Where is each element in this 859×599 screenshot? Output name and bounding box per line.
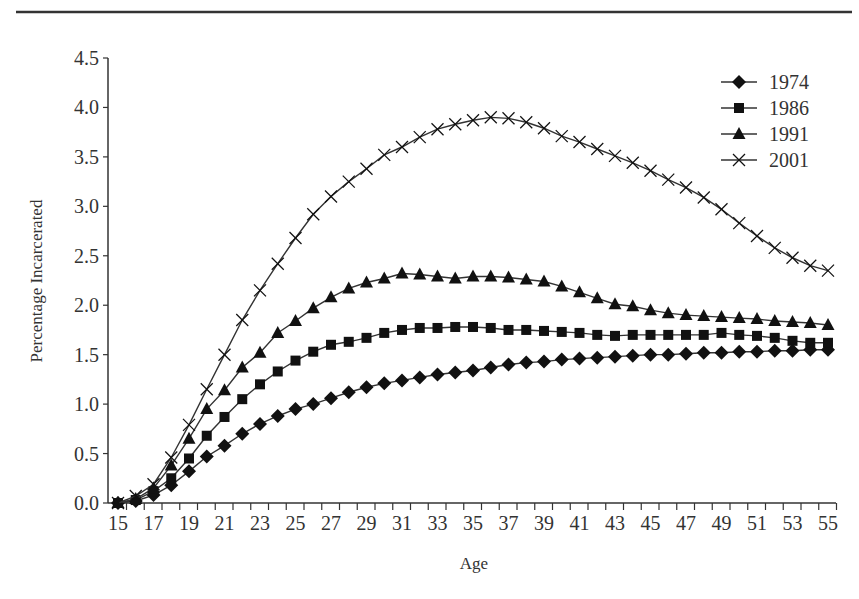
diamond-marker-icon <box>235 427 249 441</box>
x-marker-icon <box>414 131 426 143</box>
square-marker-icon <box>326 340 336 350</box>
x-marker-icon <box>645 165 657 177</box>
x-tick-label: 25 <box>286 512 306 534</box>
x-marker-icon <box>183 419 195 431</box>
x-marker-icon <box>609 150 621 162</box>
diamond-marker-icon <box>732 75 746 89</box>
legend-item-1986: 1986 <box>721 97 809 119</box>
legend-label: 2001 <box>769 149 809 171</box>
x-tick-label: 47 <box>676 512 696 534</box>
x-tick-label: 27 <box>321 512 341 534</box>
square-marker-icon <box>734 103 744 113</box>
square-marker-icon <box>486 323 496 333</box>
square-marker-icon <box>397 325 407 335</box>
x-marker-icon <box>449 118 461 130</box>
x-marker-icon <box>574 136 586 148</box>
y-tick-label: 4.5 <box>74 47 99 69</box>
x-tick-label: 15 <box>108 512 128 534</box>
square-marker-icon <box>184 454 194 464</box>
square-marker-icon <box>433 323 443 333</box>
x-marker-icon <box>272 258 284 270</box>
x-marker-icon <box>822 265 834 277</box>
diamond-marker-icon <box>377 376 391 390</box>
x-tick-label: 35 <box>463 512 483 534</box>
diamond-marker-icon <box>413 370 427 384</box>
y-tick-label: 2.0 <box>74 294 99 316</box>
series-2001 <box>112 111 834 509</box>
diamond-marker-icon <box>768 344 782 358</box>
diamond-marker-icon <box>715 346 729 360</box>
y-tick-label: 3.0 <box>74 195 99 217</box>
x-marker-icon <box>769 242 781 254</box>
diamond-marker-icon <box>608 350 622 364</box>
square-marker-icon <box>539 326 549 336</box>
diamond-marker-icon <box>661 348 675 362</box>
y-tick-label: 0.5 <box>74 443 99 465</box>
y-tick-label: 1.5 <box>74 344 99 366</box>
x-axis-title: Age <box>460 554 488 573</box>
diamond-marker-icon <box>573 352 587 366</box>
legend: 1974198619912001 <box>721 71 809 171</box>
square-marker-icon <box>166 473 176 483</box>
triangle-marker-icon <box>325 290 338 302</box>
square-marker-icon <box>308 347 318 357</box>
triangle-marker-icon <box>396 267 409 279</box>
x-tick-label: 17 <box>144 512 164 534</box>
x-tick-label: 51 <box>747 512 767 534</box>
x-tick-label: 43 <box>605 512 625 534</box>
triangle-marker-icon <box>733 127 746 139</box>
square-marker-icon <box>770 333 780 343</box>
square-marker-icon <box>805 338 815 348</box>
x-marker-icon <box>254 284 266 296</box>
triangle-marker-icon <box>307 301 320 313</box>
diamond-marker-icon <box>253 417 267 431</box>
square-marker-icon <box>450 322 460 332</box>
legend-item-2001: 2001 <box>721 149 809 171</box>
diamond-marker-icon <box>271 409 285 423</box>
y-tick-label: 4.0 <box>74 96 99 118</box>
x-marker-icon <box>716 203 728 215</box>
diamond-marker-icon <box>484 361 498 375</box>
x-tick-label: 21 <box>215 512 235 534</box>
x-marker-icon <box>698 191 710 203</box>
x-marker-icon <box>396 141 408 153</box>
x-tick-label: 37 <box>499 512 519 534</box>
legend-item-1991: 1991 <box>721 123 809 145</box>
diamond-marker-icon <box>448 365 462 379</box>
y-axis-title: Percentage Incarcerated <box>27 199 46 362</box>
diamond-marker-icon <box>360 380 374 394</box>
x-marker-icon <box>219 349 231 361</box>
square-marker-icon <box>220 412 230 422</box>
x-tick-label: 23 <box>250 512 270 534</box>
x-tick-label: 49 <box>712 512 732 534</box>
x-tick-label: 53 <box>783 512 803 534</box>
diamond-marker-icon <box>289 402 303 416</box>
x-tick-label: 31 <box>392 512 412 534</box>
x-marker-icon <box>378 149 390 161</box>
x-tick-label: 41 <box>570 512 590 534</box>
series-1991 <box>112 267 835 508</box>
square-marker-icon <box>273 366 283 376</box>
legend-label: 1986 <box>769 97 809 119</box>
y-tick-label: 3.5 <box>74 146 99 168</box>
triangle-marker-icon <box>733 311 746 323</box>
diamond-marker-icon <box>750 345 764 359</box>
square-marker-icon <box>575 328 585 338</box>
triangle-marker-icon <box>236 361 249 373</box>
diamond-marker-icon <box>395 373 409 387</box>
diamond-marker-icon <box>519 356 533 370</box>
x-marker-icon <box>432 123 444 135</box>
square-marker-icon <box>362 333 372 343</box>
x-marker-icon <box>343 176 355 188</box>
x-marker-icon <box>325 190 337 202</box>
square-marker-icon <box>415 323 425 333</box>
y-tick-label: 0.0 <box>74 492 99 514</box>
x-marker-icon <box>307 208 319 220</box>
square-marker-icon <box>610 331 620 341</box>
x-marker-icon <box>662 174 674 186</box>
diamond-marker-icon <box>218 439 232 453</box>
diamond-marker-icon <box>732 345 746 359</box>
square-marker-icon <box>628 330 638 340</box>
x-tick-label: 33 <box>428 512 448 534</box>
legend-label: 1991 <box>769 123 809 145</box>
